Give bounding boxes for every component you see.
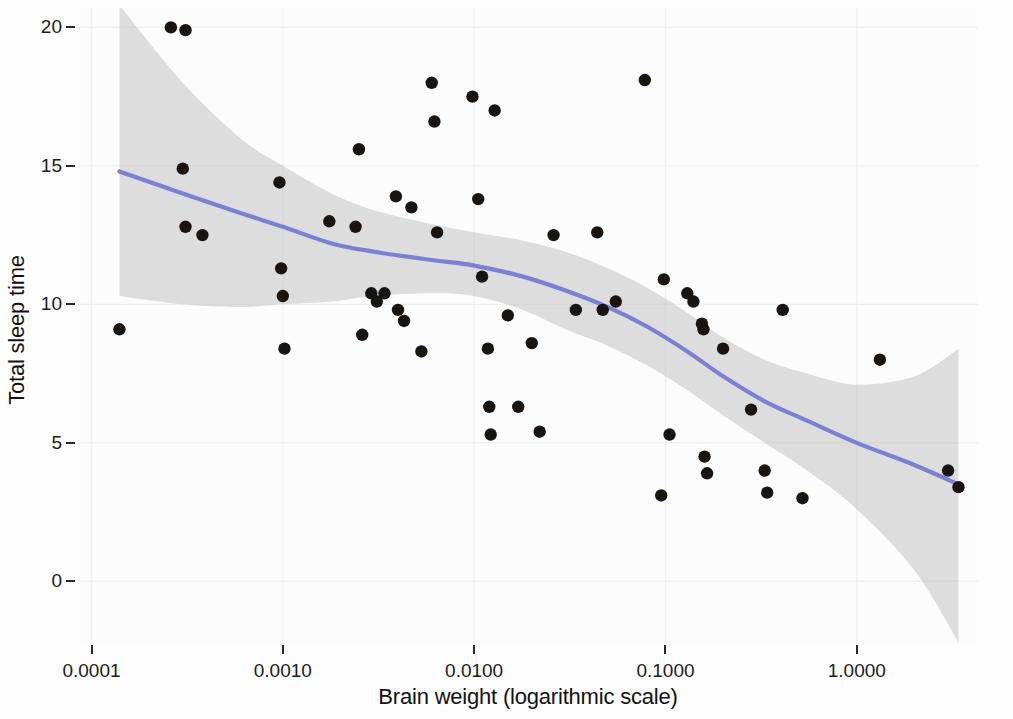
data-point (353, 143, 365, 155)
data-point (482, 342, 494, 354)
data-point (415, 345, 427, 357)
x-tick-label: 1.0000 (828, 660, 886, 682)
x-tick-mark (473, 645, 475, 654)
y-tick-label: 5 (10, 432, 62, 454)
y-tick-mark (66, 26, 75, 28)
data-point (526, 337, 538, 349)
data-point (761, 486, 773, 498)
data-point (610, 295, 622, 307)
data-point (547, 229, 559, 241)
y-tick-mark (66, 580, 75, 582)
data-point (796, 492, 808, 504)
data-point (597, 304, 609, 316)
data-point (177, 162, 189, 174)
data-point (378, 287, 390, 299)
data-point (428, 115, 440, 127)
data-point (476, 270, 488, 282)
data-point (426, 77, 438, 89)
x-tick-mark (91, 645, 93, 654)
data-point (484, 428, 496, 440)
data-point (398, 315, 410, 327)
y-tick-mark (66, 303, 75, 305)
data-point (275, 262, 287, 274)
x-tick-mark (664, 645, 666, 654)
data-point (697, 323, 709, 335)
y-axis-title: Total sleep time (0, 0, 34, 660)
data-point (113, 323, 125, 335)
data-point (512, 401, 524, 413)
x-tick-label: 0.1000 (636, 660, 694, 682)
data-point (701, 467, 713, 479)
x-tick-mark (856, 645, 858, 654)
data-point (717, 342, 729, 354)
y-tick-mark (66, 442, 75, 444)
data-point (533, 426, 545, 438)
x-tick-mark (282, 645, 284, 654)
data-point (655, 489, 667, 501)
data-point (942, 464, 954, 476)
chart-figure: Total sleep time Brain weight (logarithm… (0, 0, 1013, 719)
plot-svg (78, 8, 978, 645)
data-point (356, 329, 368, 341)
data-point (196, 229, 208, 241)
data-point (663, 428, 675, 440)
data-point (431, 226, 443, 238)
data-point (277, 290, 289, 302)
gridlines (78, 8, 978, 645)
y-tick-mark (66, 165, 75, 167)
x-tick-label: 0.0001 (62, 660, 120, 682)
data-point (591, 226, 603, 238)
data-point (472, 193, 484, 205)
x-tick-label: 0.0100 (445, 660, 503, 682)
data-point (483, 401, 495, 413)
data-point (502, 309, 514, 321)
data-point (392, 304, 404, 316)
data-point (874, 354, 886, 366)
y-tick-label: 15 (10, 155, 62, 177)
data-point (179, 221, 191, 233)
data-point (488, 104, 500, 116)
data-point (745, 403, 757, 415)
data-point (179, 24, 191, 36)
data-point (687, 295, 699, 307)
data-point (273, 176, 285, 188)
data-point (639, 74, 651, 86)
data-point (570, 304, 582, 316)
data-point (405, 201, 417, 213)
data-point (952, 481, 964, 493)
data-point (278, 342, 290, 354)
data-point (698, 450, 710, 462)
data-point (323, 215, 335, 227)
data-point (658, 273, 670, 285)
data-point (165, 21, 177, 33)
data-point (758, 464, 770, 476)
data-point (390, 190, 402, 202)
x-tick-label: 0.0010 (254, 660, 312, 682)
data-point (466, 90, 478, 102)
y-tick-label: 20 (10, 16, 62, 38)
confidence-band (119, 8, 958, 642)
y-tick-label: 0 (10, 570, 62, 592)
data-point (777, 304, 789, 316)
x-axis-title: Brain weight (logarithmic scale) (78, 684, 978, 710)
y-tick-label: 10 (10, 293, 62, 315)
plot-panel (78, 8, 978, 645)
data-point (349, 221, 361, 233)
